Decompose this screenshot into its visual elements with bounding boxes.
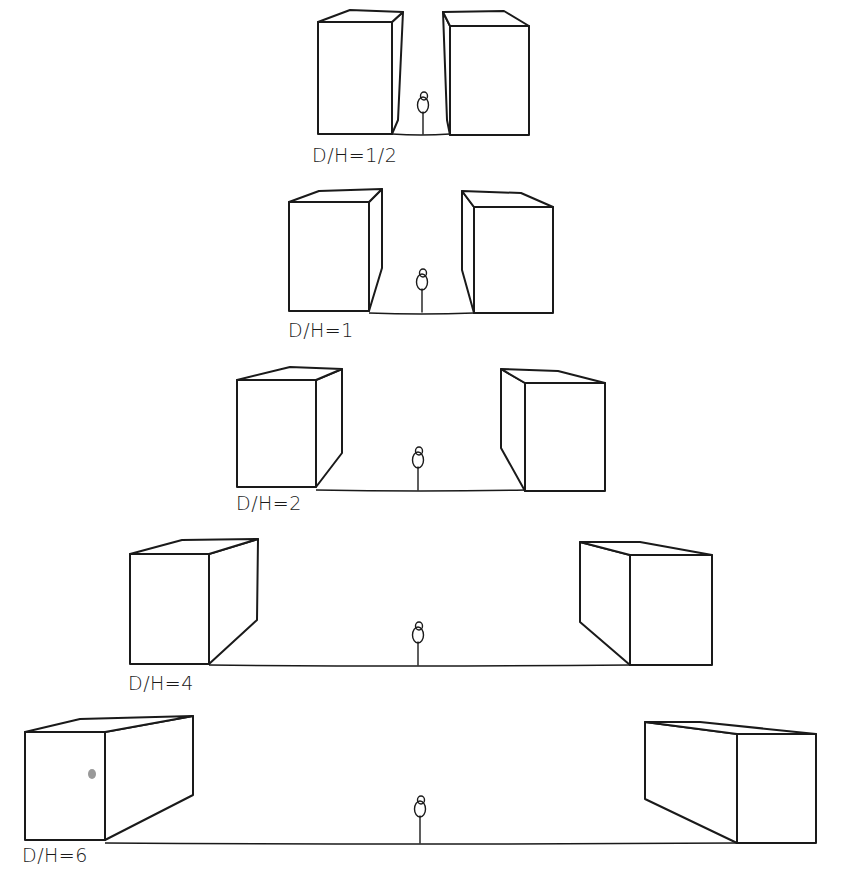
panel-label-d-h-half: D/H=1/2	[312, 144, 397, 166]
ground-line	[209, 665, 630, 666]
left-building-top	[289, 189, 382, 202]
panel-label-d-h-6: D/H=6	[22, 844, 88, 866]
left-building	[318, 10, 403, 134]
left-building-front	[289, 202, 369, 311]
panel-label-d-h-4: D/H=4	[128, 672, 194, 694]
right-building-side	[501, 369, 525, 491]
left-building-front	[25, 732, 105, 840]
left-building	[130, 539, 258, 664]
ground-line	[369, 313, 474, 314]
left-building-top	[318, 10, 403, 22]
right-building-front	[450, 26, 529, 135]
person-head	[420, 269, 427, 277]
left-building-side	[392, 12, 403, 134]
panel-label-d-h-1: D/H=1	[288, 319, 354, 341]
panel-label-d-h-2: D/H=2	[236, 492, 302, 514]
person-head	[416, 622, 423, 630]
right-building-side	[645, 722, 737, 843]
person-figure-icon	[415, 796, 426, 843]
panel-2	[237, 367, 605, 491]
ground-line	[105, 843, 737, 844]
left-building	[25, 716, 193, 840]
right-building-front	[474, 207, 553, 313]
right-building-front	[737, 734, 816, 843]
person-head	[421, 92, 428, 100]
right-building-side	[462, 191, 474, 313]
person-figure-icon	[417, 269, 428, 312]
ink-smudge	[88, 769, 96, 779]
right-building-front	[630, 555, 712, 665]
left-building	[289, 189, 382, 311]
right-building	[645, 722, 816, 843]
left-building-side	[316, 369, 342, 487]
right-building	[462, 191, 553, 313]
person-figure-icon	[413, 622, 424, 665]
left-building-side	[105, 716, 193, 840]
right-building-side	[443, 12, 450, 135]
panel-3	[130, 539, 712, 666]
right-building	[580, 542, 712, 665]
panel-4	[25, 716, 816, 844]
left-building-front	[237, 380, 316, 487]
person-head	[416, 447, 423, 455]
left-building	[237, 367, 342, 487]
right-building	[501, 369, 605, 491]
person-head	[418, 796, 425, 804]
right-building-top	[462, 191, 553, 207]
ground-line	[392, 134, 450, 135]
left-building-side	[369, 189, 382, 311]
left-building-side	[209, 539, 258, 664]
diagram-canvas	[0, 0, 856, 887]
person-figure-icon	[418, 92, 429, 134]
right-building-front	[525, 383, 605, 491]
right-building	[443, 11, 529, 135]
left-building-front	[130, 554, 209, 664]
right-building-side	[580, 542, 630, 665]
left-building-front	[318, 22, 392, 134]
ground-line	[316, 490, 525, 491]
right-building-top	[443, 11, 529, 26]
panel-0	[318, 10, 529, 135]
panel-1	[289, 189, 553, 314]
person-figure-icon	[413, 447, 424, 490]
